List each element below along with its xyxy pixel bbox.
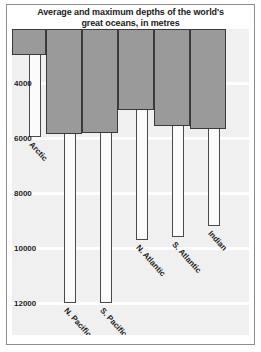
gridline-12000: [12, 302, 249, 305]
y-axis-label-6000: 6000: [14, 134, 32, 143]
chart-title-line-2: great oceans, in metres: [10, 18, 251, 29]
y-axis-label-8000: 8000: [14, 189, 32, 198]
bar-label-arctic: Arctic: [27, 140, 49, 163]
avg-depth-bar-s-atlantic: [154, 29, 190, 126]
plot-area: 4000 6000 8000 10000 12000 Arctic N. Pac…: [12, 29, 249, 335]
avg-depth-bar-n-pacific: [46, 29, 82, 134]
gridline-10000: [12, 247, 249, 250]
chart-figure: Average and maximum depths of the world'…: [0, 0, 261, 352]
y-axis-label-10000: 10000: [14, 244, 36, 253]
bar-label-s-atlantic: S. Atlantic: [170, 240, 203, 275]
y-axis-label-12000: 12000: [14, 299, 36, 308]
avg-depth-bar-arctic: [12, 29, 46, 55]
bar-label-s-pacific: S. Pacific: [98, 306, 128, 335]
bar-label-n-pacific: N. Pacific: [62, 306, 93, 335]
avg-depth-bar-s-pacific: [82, 29, 118, 133]
y-axis-label-4000: 4000: [14, 79, 32, 88]
chart-title: Average and maximum depths of the world'…: [10, 7, 251, 29]
chart-title-line-1: Average and maximum depths of the world'…: [10, 7, 251, 18]
avg-depth-bar-indian: [190, 29, 226, 129]
avg-depth-bar-n-atlantic: [118, 29, 154, 110]
